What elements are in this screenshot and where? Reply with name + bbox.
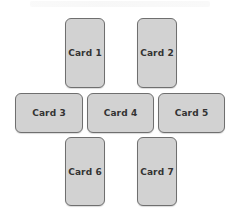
- faint-header-text: [30, 1, 210, 7]
- card-6[interactable]: Card 6: [65, 137, 105, 206]
- card-label: Card 5: [175, 108, 209, 118]
- card-label: Card 4: [104, 108, 138, 118]
- card-label: Card 6: [68, 167, 102, 177]
- card-label: Card 3: [32, 108, 66, 118]
- card-2[interactable]: Card 2: [137, 18, 177, 88]
- card-7[interactable]: Card 7: [137, 137, 177, 206]
- card-1[interactable]: Card 1: [65, 18, 105, 88]
- card-label: Card 7: [140, 167, 174, 177]
- card-5[interactable]: Card 5: [158, 93, 225, 133]
- card-label: Card 2: [140, 48, 174, 58]
- card-4[interactable]: Card 4: [87, 93, 154, 133]
- card-3[interactable]: Card 3: [15, 93, 83, 133]
- card-label: Card 1: [68, 48, 102, 58]
